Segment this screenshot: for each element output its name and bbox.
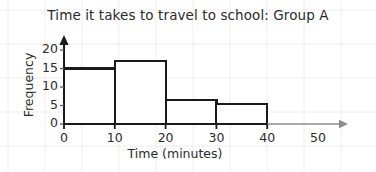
y-tick-label: 10: [32, 81, 58, 91]
histogram-bar: [216, 104, 267, 124]
x-tick-label: 0: [52, 130, 76, 145]
y-tick-label: 5: [32, 100, 58, 110]
histogram-bar: [115, 61, 166, 124]
x-axis-arrowhead: [339, 120, 348, 128]
histogram-bar: [166, 100, 217, 124]
y-tick-label: 0: [32, 118, 58, 128]
y-axis-arrowhead: [59, 35, 68, 45]
x-tick-label: 20: [154, 130, 178, 145]
bars-group: [64, 61, 267, 124]
x-tick-label: 10: [103, 130, 127, 145]
y-tick-label: 20: [32, 44, 58, 54]
histogram-bar: [64, 69, 115, 125]
x-tick-label: 30: [204, 130, 228, 145]
x-tick-label: 50: [306, 130, 330, 145]
x-tick-label: 40: [255, 130, 279, 145]
y-tick-label: 15: [32, 63, 58, 73]
histogram-chart: Time it takes to travel to school: Group…: [0, 0, 376, 172]
